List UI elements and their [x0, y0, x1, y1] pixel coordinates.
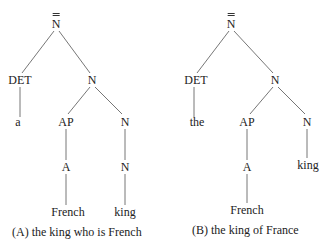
tree-b-n1-node: N: [303, 116, 312, 128]
tree-b-adj-word: French: [230, 204, 263, 216]
tree-a-det-node: DET: [8, 74, 31, 86]
double-bar-n-label: N: [227, 18, 236, 30]
double-bar-n-label: N: [52, 18, 61, 30]
tree-b-det-node: DET: [184, 74, 207, 86]
tree-a-caption: (A) the king who is French: [12, 225, 142, 239]
tree-a-root-node: N: [52, 18, 61, 30]
tree-a-det-word: a: [15, 116, 20, 128]
tree-b-root-node: N: [227, 18, 236, 30]
tree-b-noun-word: king: [297, 159, 318, 171]
tree-b-det-word: the: [190, 116, 205, 128]
tree-a-noun-word: king: [114, 206, 135, 218]
tree-a-nbar-node: N: [88, 74, 97, 86]
tree-b-caption: (B) the king of France: [192, 223, 299, 237]
tree-b-nbar-node: N: [271, 74, 280, 86]
tree-a-ap-node: AP: [58, 116, 73, 128]
tree-a-n2-node: N: [121, 161, 130, 173]
tree-b-a-node: A: [243, 161, 252, 173]
tree-a-adj-word: French: [51, 206, 84, 218]
tree-a-n1-node: N: [121, 116, 130, 128]
tree-edges: [0, 0, 325, 246]
tree-a-a-node: A: [62, 161, 71, 173]
tree-b-ap-node: AP: [239, 116, 254, 128]
